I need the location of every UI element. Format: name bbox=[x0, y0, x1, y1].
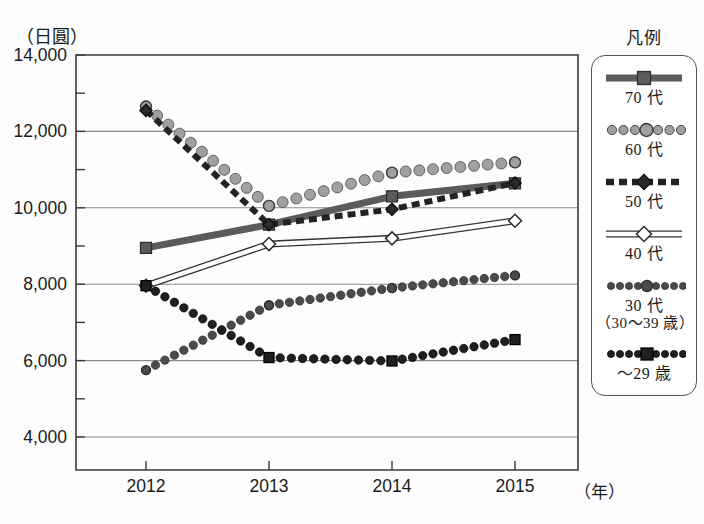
legend: 凡例 70 代60 代50 代40 代30 代（30〜39 歳）〜29 歳 bbox=[588, 24, 700, 396]
legend-swatch-icon bbox=[602, 68, 686, 88]
x-axis-unit-label: （年） bbox=[574, 478, 625, 503]
x-tick-label: 2014 bbox=[373, 476, 412, 496]
x-tick-label: 2015 bbox=[496, 476, 535, 496]
x-tick-label: 2013 bbox=[250, 476, 289, 496]
legend-item-sublabel: （30〜39 歳） bbox=[596, 315, 692, 332]
legend-item-5[interactable]: 30 代（30〜39 歳） bbox=[596, 276, 692, 332]
legend-swatch-icon bbox=[602, 276, 686, 296]
legend-item-label: 60 代 bbox=[596, 141, 692, 159]
y-tick-label: 6,000 bbox=[23, 351, 67, 371]
legend-swatch-icon bbox=[602, 120, 686, 140]
y-tick-label: 10,000 bbox=[13, 198, 67, 218]
y-tick-label: 12,000 bbox=[13, 121, 67, 141]
legend-item-6[interactable]: 〜29 歳 bbox=[596, 344, 692, 383]
legend-swatch-icon bbox=[602, 224, 686, 244]
y-tick-label: 8,000 bbox=[23, 274, 67, 294]
x-tick-labels: 2012201320142015 bbox=[127, 476, 535, 496]
legend-item-2[interactable]: 60 代 bbox=[596, 120, 692, 159]
legend-item-label: 40 代 bbox=[596, 245, 692, 263]
chart-page: （日圓） 14,00012,00010,0008,0006,0004,000 2… bbox=[0, 0, 704, 524]
y-tick-labels: 14,00012,00010,0008,0006,0004,000 bbox=[13, 45, 67, 447]
series-5 bbox=[142, 271, 520, 375]
legend-swatch-icon bbox=[602, 344, 686, 364]
y-tick-label: 4,000 bbox=[23, 427, 67, 447]
legend-item-label: 50 代 bbox=[596, 193, 692, 211]
legend-title: 凡例 bbox=[588, 24, 700, 49]
legend-item-1[interactable]: 70 代 bbox=[596, 68, 692, 107]
data-series bbox=[140, 101, 522, 375]
axis-frame bbox=[76, 55, 578, 470]
legend-item-3[interactable]: 50 代 bbox=[596, 172, 692, 211]
x-tick-label: 2012 bbox=[127, 476, 166, 496]
y-tick-label: 14,000 bbox=[13, 45, 67, 65]
legend-box: 70 代60 代50 代40 代30 代（30〜39 歳）〜29 歳 bbox=[591, 55, 697, 396]
axis-ticks bbox=[76, 55, 515, 470]
legend-swatch-icon bbox=[602, 172, 686, 192]
legend-item-label: 〜29 歳 bbox=[596, 365, 692, 383]
legend-item-label: 30 代（30〜39 歳） bbox=[596, 297, 692, 332]
legend-item-4[interactable]: 40 代 bbox=[596, 224, 692, 263]
legend-item-label: 70 代 bbox=[596, 89, 692, 107]
